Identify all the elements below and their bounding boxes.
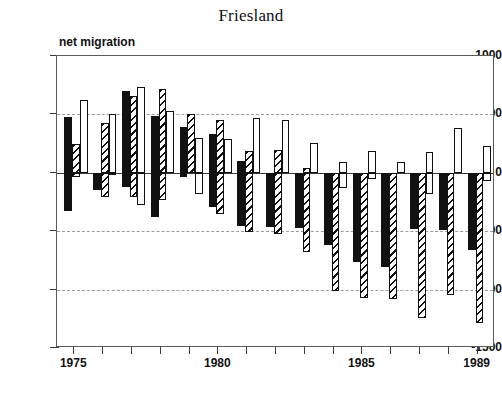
bar [195,138,203,173]
bar [303,173,311,252]
x-axis-tick-mark [477,347,478,354]
bar [360,173,368,298]
bar [209,173,217,207]
bar [339,162,347,173]
bar [122,91,130,173]
bar [245,173,253,233]
bar [295,173,303,228]
bar [101,123,109,173]
bar [353,173,361,262]
x-axis-tick-label: 1989 [463,356,490,370]
bar [237,161,245,173]
x-axis-tick-label: 1975 [60,356,87,370]
bar [151,116,159,173]
x-axis-tick-mark [448,347,449,354]
y-axis-label: net migration [59,35,135,49]
bar [180,127,188,173]
plot-area [56,55,494,347]
bar [93,173,101,191]
bar [339,173,347,188]
x-axis-tick-mark [102,347,103,354]
bar [159,89,167,173]
x-axis-tick-mark [73,347,74,354]
bar [324,173,332,245]
bar [151,173,159,217]
bar [454,128,462,173]
x-axis-tick-mark [131,347,132,354]
bar [72,144,80,173]
bar [426,173,434,195]
bar [476,173,484,324]
bar [137,87,145,173]
x-axis-tick-mark [390,347,391,354]
bar [224,139,232,173]
bar [274,150,282,173]
bar [310,143,318,173]
bar [274,173,282,234]
bar [109,114,117,172]
bar [166,111,174,173]
bar [332,173,340,291]
gridline [57,290,493,291]
bar [109,173,117,175]
bar [483,173,491,181]
bar [130,96,138,173]
bar [80,100,88,172]
bar [216,120,224,173]
x-axis-tick-mark [246,347,247,354]
bar [130,173,138,198]
bar [483,146,491,173]
bar [180,173,188,177]
bar [253,118,261,173]
x-axis-tick-mark [160,347,161,354]
bar [439,173,447,230]
bar [426,152,434,173]
bar [447,173,455,296]
chart-root: Friesland net migration 10005000-500-100… [0,0,502,395]
bar [381,173,389,268]
bar [389,173,397,299]
x-axis-tick-mark [304,347,305,354]
x-axis-tick-mark [217,347,218,354]
bar [195,173,203,195]
bar [137,173,145,205]
bar [368,173,376,179]
bar [418,173,426,318]
bar [216,173,224,214]
bar [122,173,130,188]
bar [72,173,80,177]
bar [468,173,476,250]
x-axis-tick-label: 1980 [204,356,231,370]
bar [397,162,405,173]
bar [368,151,376,173]
bar [266,173,274,227]
bar [209,134,217,173]
chart-title: Friesland [0,6,502,26]
x-axis-tick-mark [419,347,420,354]
x-axis-tick-mark [361,347,362,354]
bar [159,173,167,200]
x-axis-tick-mark [333,347,334,354]
bar [187,114,195,173]
bar [282,120,290,173]
bar [245,151,253,173]
y-axis-tick-mark [50,347,59,348]
bar [64,173,72,212]
bar [101,173,109,198]
bar [410,173,418,229]
bar [237,173,245,226]
bar [64,117,72,173]
x-axis-tick-mark [189,347,190,354]
x-axis-tick-label: 1985 [348,356,375,370]
x-axis-tick-mark [275,347,276,354]
